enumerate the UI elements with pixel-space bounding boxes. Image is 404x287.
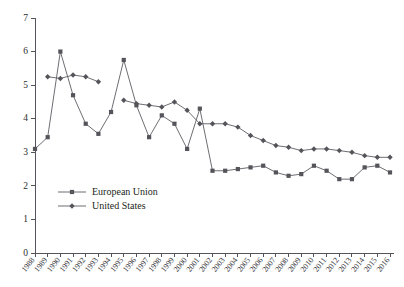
data-point <box>223 169 227 173</box>
series-2 <box>45 72 393 160</box>
data-point <box>210 169 214 173</box>
y-axis: 01234567 <box>23 13 35 258</box>
x-axis: 1988198919901991199219931994199519961997… <box>20 253 394 274</box>
data-point <box>299 148 304 153</box>
data-point <box>274 170 278 174</box>
data-point <box>286 174 290 178</box>
series-path <box>35 52 390 180</box>
data-point <box>324 146 329 151</box>
series-1 <box>33 49 392 181</box>
data-point <box>387 155 392 160</box>
data-point <box>248 133 253 138</box>
data-point <box>337 177 341 181</box>
data-point <box>121 98 126 103</box>
data-point <box>160 113 164 117</box>
y-tick-label: 6 <box>23 46 28 56</box>
legend-marker <box>70 190 74 194</box>
data-point <box>172 99 177 104</box>
data-point <box>375 164 379 168</box>
legend-label: United States <box>92 200 146 211</box>
data-point <box>363 165 367 169</box>
data-point <box>235 124 240 129</box>
data-point <box>45 74 50 79</box>
data-point <box>70 72 75 77</box>
y-tick-label: 4 <box>23 113 28 123</box>
data-point <box>261 164 265 168</box>
line-chart: 01234567 1988198919901991199219931994199… <box>0 0 404 287</box>
data-point <box>147 135 151 139</box>
y-tick-label: 3 <box>23 147 28 157</box>
data-point <box>261 138 266 143</box>
legend-item-2: United States <box>58 200 146 211</box>
data-point <box>349 150 354 155</box>
data-point <box>311 146 316 151</box>
data-point <box>146 103 151 108</box>
data-point <box>185 147 189 151</box>
data-point <box>273 143 278 148</box>
data-point <box>299 172 303 176</box>
data-point <box>222 121 227 126</box>
data-point <box>58 49 62 53</box>
data-point <box>375 155 380 160</box>
data-point <box>198 107 202 111</box>
legend-item-1: European Union <box>58 186 158 197</box>
data-point <box>84 122 88 126</box>
x-tick-label: 2016 <box>375 256 392 274</box>
chart-legend: European UnionUnited States <box>58 186 158 211</box>
data-point <box>46 135 50 139</box>
series-layer <box>33 49 393 181</box>
legend-label: European Union <box>92 186 158 197</box>
y-tick-label: 0 <box>23 248 28 258</box>
data-point <box>337 148 342 153</box>
y-tick-label: 5 <box>23 80 28 90</box>
data-point <box>312 164 316 168</box>
data-point <box>236 167 240 171</box>
data-point <box>210 121 215 126</box>
data-point <box>96 132 100 136</box>
data-point <box>388 170 392 174</box>
data-point <box>350 177 354 181</box>
data-point <box>172 122 176 126</box>
data-point <box>83 74 88 79</box>
data-point <box>58 76 63 81</box>
data-point <box>33 147 37 151</box>
y-tick-label: 2 <box>23 181 28 191</box>
y-tick-label: 7 <box>23 13 28 23</box>
data-point <box>325 169 329 173</box>
data-point <box>159 104 164 109</box>
data-point <box>109 110 113 114</box>
y-tick-label: 1 <box>23 214 28 224</box>
series-path <box>124 100 390 157</box>
chart-container: 01234567 1988198919901991199219931994199… <box>0 0 404 287</box>
data-point <box>96 79 101 84</box>
data-point <box>248 165 252 169</box>
legend-marker <box>69 203 74 208</box>
data-point <box>286 145 291 150</box>
data-point <box>71 93 75 97</box>
data-point <box>362 153 367 158</box>
data-point <box>122 58 126 62</box>
